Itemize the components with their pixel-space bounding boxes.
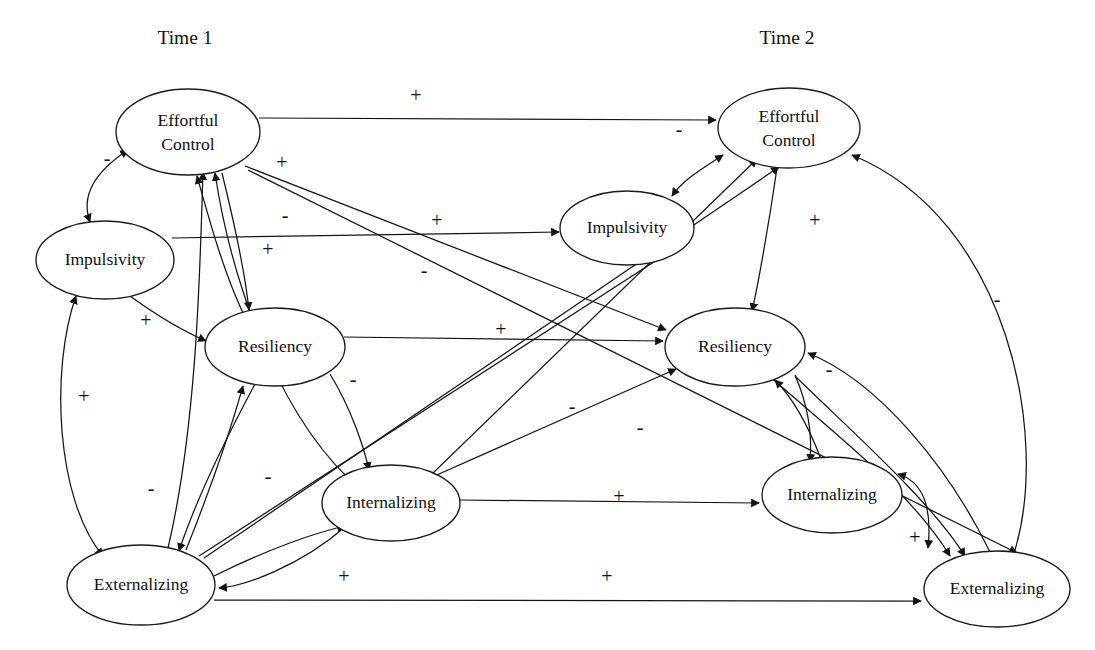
sign-label: -: [676, 118, 683, 140]
edge-t1int-to-t2res: [430, 369, 676, 478]
edge-t1imp-to-t2imp: [172, 232, 559, 238]
node-t1-resiliency[interactable]: Resiliency: [205, 308, 345, 386]
edge-t2int-t2ext-bidir: [898, 474, 929, 548]
node-t1-effortful-control[interactable]: Effortful Control: [116, 89, 260, 175]
node-shape: [762, 457, 902, 533]
time-1-header: Time 1: [157, 27, 212, 48]
sign-label: +: [613, 485, 624, 507]
path-diagram-figure: Effortful Control Impulsivity Resiliency…: [0, 0, 1095, 650]
node-shape: [36, 221, 174, 299]
node-t1-impulsivity[interactable]: Impulsivity: [36, 221, 174, 299]
time-header-layer: Time 1 Time 2: [157, 27, 814, 48]
sign-label: +: [431, 209, 442, 231]
node-shape: [205, 308, 345, 386]
sign-label: -: [826, 358, 833, 380]
edge-t1ext-to-t1ec: [168, 172, 203, 548]
sign-label: +: [140, 309, 151, 331]
edge-t1int-to-t2int: [459, 500, 759, 503]
sign-label: +: [601, 565, 612, 587]
edge-t1int-to-t1ext: [219, 527, 345, 588]
edge-t1ext-to-t2ext: [214, 600, 921, 601]
sign-label: +: [809, 209, 820, 231]
sign-label: +: [495, 318, 506, 340]
node-t1-externalizing[interactable]: Externalizing: [67, 545, 215, 625]
sign-label: -: [265, 465, 272, 487]
edge-t1res-to-t1int: [330, 374, 369, 470]
sign-label: -: [350, 368, 357, 390]
edge-t1res-to-t2res: [344, 337, 663, 341]
node-t2-externalizing[interactable]: Externalizing: [924, 551, 1070, 627]
time-2-header: Time 2: [759, 27, 814, 48]
node-t2-resiliency[interactable]: Resiliency: [665, 308, 805, 386]
node-t1-internalizing[interactable]: Internalizing: [322, 465, 460, 541]
edge-t2int-to-t2res: [775, 380, 821, 459]
sign-label: -: [421, 259, 428, 281]
edge-t1ec-t1imp-bidir: [87, 150, 128, 222]
node-shape: [718, 88, 860, 168]
edge-t1imp-t1ext-bidir: [61, 296, 103, 556]
diagram-canvas: Effortful Control Impulsivity Resiliency…: [0, 0, 1095, 650]
edge-layer-under: [61, 118, 1027, 601]
sign-label: +: [276, 151, 287, 173]
node-shape: [67, 545, 215, 625]
sign-label: +: [909, 526, 920, 548]
sign-label: -: [569, 395, 576, 417]
edge-t1ext-to-t1res: [186, 386, 243, 550]
node-t2-internalizing[interactable]: Internalizing: [762, 457, 902, 533]
node-shape: [665, 308, 805, 386]
node-shape: [322, 465, 460, 541]
edge-t1res-to-t1ec: [197, 176, 243, 313]
sign-label: +: [410, 84, 421, 106]
edge-t1ec-to-t1res: [222, 173, 249, 310]
sign-label: +: [262, 238, 273, 260]
sign-label: -: [282, 204, 289, 226]
node-t2-impulsivity[interactable]: Impulsivity: [560, 191, 694, 265]
sign-label: -: [148, 477, 155, 499]
node-shape: [116, 89, 260, 175]
node-shape: [560, 191, 694, 265]
node-t2-effortful-control[interactable]: Effortful Control: [718, 88, 860, 168]
sign-label: +: [338, 565, 349, 587]
sign-label: +: [78, 385, 89, 407]
edge-t1imp-to-t1res: [130, 296, 206, 341]
edge-t2imp-t2ec-bidir: [672, 155, 723, 196]
sign-label: -: [104, 147, 111, 169]
sign-label: -: [637, 416, 644, 438]
node-shape: [924, 551, 1070, 627]
edge-t1ec-to-t2ec: [259, 118, 716, 120]
edge-t2ec-to-t2res: [752, 168, 777, 311]
